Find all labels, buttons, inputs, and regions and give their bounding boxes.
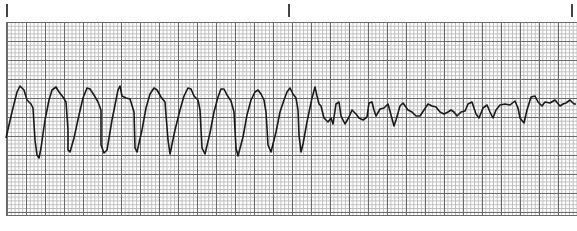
ecg-waveform (0, 0, 576, 231)
